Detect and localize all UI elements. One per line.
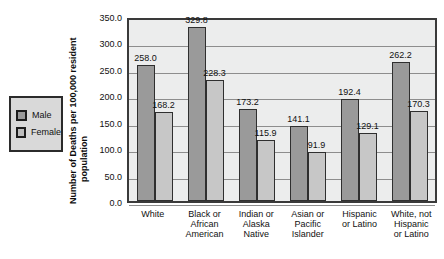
bar-male[interactable]: 262.2 — [392, 62, 410, 201]
bar-male[interactable]: 141.1 — [290, 126, 308, 201]
y-axis-tick-label: 100.0 — [99, 146, 122, 155]
y-axis-tick-label: 350.0 — [99, 14, 122, 23]
bar-female[interactable]: 129.1 — [359, 133, 377, 201]
chart-legend: Male Female — [9, 96, 63, 152]
bar-female[interactable]: 170.3 — [410, 111, 428, 201]
legend-item-male: Male — [16, 110, 61, 121]
bar-value-label: 173.2 — [236, 98, 259, 107]
x-axis-label: White, notHispanicor Latino — [385, 206, 437, 254]
y-axis-tick-label: 50.0 — [104, 172, 122, 181]
x-axis-label: Asian orPacificIslander — [282, 206, 334, 254]
bar-value-label: 258.0 — [134, 54, 157, 63]
y-axis-title: Number of Deaths per 100,000 resident po… — [58, 18, 88, 204]
y-axis-tick-label: 300.0 — [99, 40, 122, 49]
bar-value-label: 170.3 — [407, 100, 430, 109]
y-axis-tick-label: 200.0 — [99, 93, 122, 102]
bar-value-label: 262.2 — [389, 51, 412, 60]
y-axis-tick-label: 150.0 — [99, 119, 122, 128]
bar-group: 141.191.9 — [282, 20, 333, 201]
bar-group: 262.2170.3 — [384, 20, 435, 201]
legend-label-female: Female — [31, 128, 61, 137]
bar-group: 258.0168.2 — [129, 20, 180, 201]
bar-group: 192.4129.1 — [333, 20, 384, 201]
x-axis-label: White — [127, 206, 179, 254]
bar-male[interactable]: 258.0 — [137, 65, 155, 201]
bar-male[interactable]: 173.2 — [239, 109, 257, 201]
bar-female[interactable]: 168.2 — [155, 112, 173, 201]
bar-value-label: 168.2 — [152, 101, 175, 110]
y-axis-tick-label: 0.0 — [109, 199, 122, 208]
bar-female[interactable]: 91.9 — [308, 152, 326, 201]
legend-swatch-female-icon — [16, 127, 26, 138]
bar-male[interactable]: 192.4 — [341, 99, 359, 201]
bar-value-label: 329.8 — [185, 16, 208, 25]
x-axis-label: Indian orAlaskaNative — [230, 206, 282, 254]
x-axis-label: Black orAfricanAmerican — [179, 206, 231, 254]
x-axis-labels: WhiteBlack orAfricanAmericanIndian orAla… — [127, 206, 437, 254]
bar-value-label: 228.3 — [203, 69, 226, 78]
bar-group: 329.8228.3 — [180, 20, 231, 201]
y-axis-tick-labels: 350.0300.0250.0200.0150.0100.050.00.0 — [86, 18, 122, 203]
bar-male[interactable]: 329.8 — [188, 27, 206, 201]
bar-value-label: 141.1 — [287, 115, 310, 124]
bar-value-label: 91.9 — [308, 141, 326, 150]
x-axis-label: Hispanicor Latino — [334, 206, 386, 254]
bar-value-label: 192.4 — [338, 88, 361, 97]
legend-label-male: Male — [32, 111, 52, 120]
legend-swatch-male-icon — [16, 110, 27, 121]
plot-area: 258.0168.2329.8228.3173.2115.9141.191.91… — [127, 18, 437, 203]
bar-value-label: 115.9 — [255, 129, 277, 138]
bar-groups: 258.0168.2329.8228.3173.2115.9141.191.91… — [129, 20, 435, 201]
bar-group: 173.2115.9 — [231, 20, 282, 201]
bar-female[interactable]: 228.3 — [206, 80, 224, 201]
bar-chart: Male Female Number of Deaths per 100,000… — [0, 0, 444, 259]
y-axis-title-line-1: Number of Deaths per 100,000 resident — [69, 37, 78, 204]
y-axis-tick-label: 250.0 — [99, 66, 122, 75]
bar-female[interactable]: 115.9 — [257, 140, 275, 201]
legend-item-female: Female — [16, 127, 61, 138]
bar-value-label: 129.1 — [356, 122, 379, 131]
